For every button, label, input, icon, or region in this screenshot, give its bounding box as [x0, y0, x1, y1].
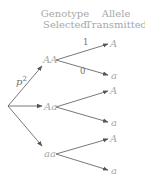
- probability-AA-to-A: 1: [83, 38, 88, 47]
- branch-root-to-aa: [8, 106, 42, 146]
- branch-Aa-to-a: [56, 107, 108, 122]
- allele-label-AA-A: A: [110, 39, 117, 49]
- allele-label-aa-A: A: [110, 134, 117, 144]
- branch-Aa-to-A: [56, 91, 108, 107]
- genotype-allele-tree-diagram: Genotype Selected Allele Transmitted p2 …: [0, 0, 145, 182]
- allele-label-Aa-a: a: [111, 118, 117, 128]
- allele-header-line2: Transmitted: [85, 20, 145, 30]
- branch-aa-to-a: [56, 154, 108, 170]
- branch-AA-to-A: [56, 44, 108, 60]
- genotype-header-line1: Genotype: [41, 9, 89, 19]
- probability-AA-to-a: 0: [80, 67, 85, 76]
- allele-label-aa-a: a: [111, 166, 117, 176]
- genotype-label-AA: AA: [43, 55, 57, 65]
- genotype-header-line2: Selected: [43, 20, 87, 30]
- genotype-label-Aa: Aa: [44, 102, 57, 112]
- branch-aa-to-A: [56, 139, 108, 154]
- allele-header-line1: Allele: [102, 9, 131, 19]
- allele-label-AA-a: a: [111, 71, 117, 81]
- root-probability-label: p2: [16, 76, 27, 87]
- genotype-label-aa: aa: [44, 149, 56, 159]
- allele-label-Aa-A: A: [110, 86, 117, 96]
